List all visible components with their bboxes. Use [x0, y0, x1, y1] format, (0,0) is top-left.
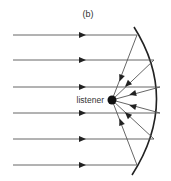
listener-dot: [108, 96, 117, 105]
reflector-arc: [132, 27, 157, 175]
arrowhead-icon: [79, 162, 86, 168]
arrowhead-icon: [79, 32, 86, 38]
arrowhead-icon: [79, 110, 86, 116]
arrowhead-icon: [79, 84, 86, 90]
panel-label: (b): [83, 9, 94, 19]
reflected-ray: [112, 35, 137, 100]
arrowhead-icon: [79, 136, 86, 142]
arrowhead-icon: [123, 80, 132, 89]
arrowhead-icon: [128, 102, 136, 110]
arrowhead-icon: [117, 74, 125, 83]
reflected-arrowheads: [117, 74, 137, 126]
reflected-rays: [112, 35, 160, 165]
listener-label: listener: [77, 95, 105, 105]
arrowhead-icon: [79, 57, 86, 63]
arrowhead-icon: [128, 90, 136, 98]
arrowhead-icon: [117, 117, 125, 126]
reflected-ray: [112, 100, 137, 165]
reflector-diagram: (b) listener: [0, 0, 171, 181]
